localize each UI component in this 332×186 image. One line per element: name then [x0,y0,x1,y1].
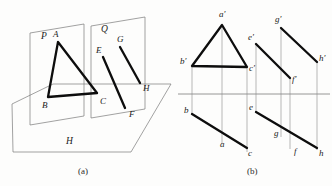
label-a-plan: a [220,139,225,149]
plane-p-label: P [40,31,47,41]
label-b-primed: b′ [180,56,188,66]
vertex-label-b: B [42,100,48,110]
caption-b: (b) [247,166,258,176]
label-a-primed: a′ [219,9,227,19]
vertex-label-a: A [52,29,59,39]
endpoint-label-e: E [95,45,102,55]
vertex-label-c: C [100,96,107,106]
label-c-plan: c [248,148,252,158]
label-h-plan: h [319,148,324,158]
label-c-primed: c′ [249,63,256,73]
technical-drawing-figure: P Q H A B C E F G H [0,0,332,186]
label-b-plan: b [184,105,189,115]
caption-a: (a) [78,166,88,176]
segment-egfh-plan [256,112,317,148]
figure-canvas: P Q H A B C E F G H [0,0,332,186]
label-e-primed: e′ [248,32,255,42]
label-g-plan: g [274,128,279,138]
endpoint-label-g: G [117,34,124,44]
segment-ef-primed [256,44,290,78]
segment-gh [120,47,140,83]
triangle-abc [48,42,97,97]
label-f-primed: f′ [292,74,298,84]
segment-gh-primed [281,28,317,62]
endpoint-label-h: H [142,83,150,93]
label-g-primed: g′ [275,14,283,24]
triangle-abc-primed [192,25,247,67]
plane-q-label: Q [101,24,108,34]
panel-a-group: P Q H A B C E F G H [12,17,171,152]
endpoint-label-f: F [128,109,135,119]
label-f-plan: f [294,146,298,156]
label-e-plan: e [249,102,253,112]
segment-ef [103,57,125,108]
panel-b-group: a′ b′ c′ e′ f′ g′ h′ b a c e g f h [178,9,330,158]
label-h-primed: h′ [319,53,327,63]
plane-h-label: H [65,136,74,146]
plane-p-outline [30,24,84,125]
